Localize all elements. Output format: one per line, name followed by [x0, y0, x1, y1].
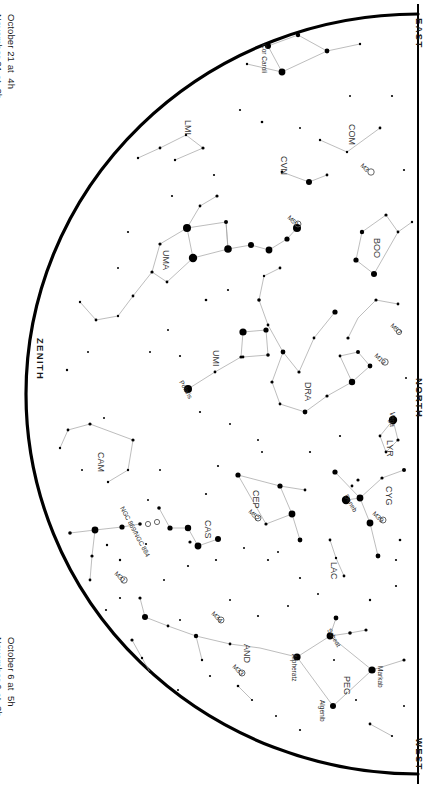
- label-algenib: Algenib: [318, 700, 326, 722]
- label-m3: M3: [359, 162, 371, 174]
- sky-map[interactable]: LMI CVN COM BOO UMA UMI DRA LYR CYG CEP …: [0, 0, 446, 788]
- label-cyg: CYG: [384, 486, 394, 506]
- label-m13: M13: [373, 352, 387, 366]
- label-cam: CAM: [96, 452, 106, 472]
- cardinal-west: WEST: [414, 738, 425, 771]
- label-uma: UMA: [161, 250, 171, 270]
- lower-date-time-legend: October 6 at 5h November 6 at 3h Decembe…: [0, 637, 18, 717]
- label-lmi: LMI: [183, 120, 193, 135]
- ngc869-marker: [145, 521, 150, 526]
- label-lyr: LYR: [385, 440, 395, 457]
- label-cor-caroli: Cor Caroli: [261, 44, 268, 73]
- legend-line: October 21 at 4h: [5, 14, 18, 99]
- legend-line: November 6 at 3h: [0, 637, 5, 717]
- cardinal-east: EAST: [414, 18, 425, 49]
- star-chart-root: LMI CVN COM BOO UMA UMI DRA LYR CYG CEP …: [0, 0, 446, 788]
- label-cas: CAS: [203, 520, 213, 539]
- legend-line: October 6 at 5h: [5, 637, 18, 717]
- label-markab: Markab: [377, 666, 384, 688]
- deep-sky-labels: M3 M51 M13 M57 M39 M52 M34 M31 M33 NGC 8…: [113, 162, 403, 677]
- label-ngc869-884: NGC 869/NGC 884: [119, 505, 152, 558]
- label-umi: UMI: [211, 350, 221, 367]
- cardinal-zenith: ZENITH: [35, 338, 46, 380]
- label-vega: Vega: [388, 412, 396, 427]
- label-lac: LAC: [329, 562, 339, 580]
- cardinal-north: NORTH: [414, 378, 425, 418]
- label-m33: M33: [231, 663, 245, 677]
- label-dra: DRA: [303, 382, 313, 401]
- legend-line: November 21 at 2h: [0, 14, 5, 99]
- upper-date-time-legend: October 21 at 4h November 21 at 2h Decem…: [0, 14, 18, 99]
- star-name-labels: Polaris Vega Deneb Alpheratz Scheat Mark…: [178, 44, 396, 722]
- label-m31: M31: [113, 570, 127, 584]
- label-polaris: Polaris: [178, 379, 194, 400]
- constellation-labels: LMI CVN COM BOO UMA UMI DRA LYR CYG CEP …: [96, 120, 395, 695]
- label-m52: M52: [247, 508, 261, 522]
- label-com: COM: [347, 124, 357, 145]
- label-cvn: CVN: [279, 156, 289, 175]
- label-m34: M34: [210, 610, 224, 624]
- ngc884-marker: [154, 519, 159, 524]
- label-boo: BOO: [372, 238, 382, 258]
- label-m39: M39: [371, 510, 385, 524]
- label-alpheratz: Alpheratz: [290, 654, 298, 681]
- label-cep: CEP: [251, 490, 261, 509]
- label-peg: PEG: [342, 676, 352, 695]
- label-and: AND: [242, 644, 252, 664]
